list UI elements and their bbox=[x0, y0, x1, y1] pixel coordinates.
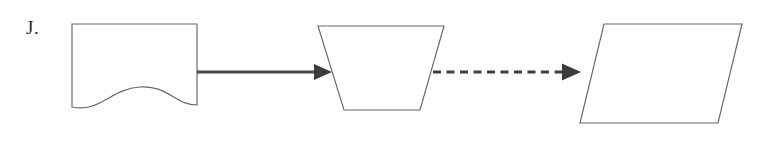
connector-dashed-arrow bbox=[433, 64, 581, 81]
connector-dashed-arrowhead bbox=[562, 64, 581, 81]
flowchart-diagram-svg bbox=[0, 0, 766, 143]
connector-solid-arrow bbox=[197, 64, 332, 80]
shape-trapezoid bbox=[318, 26, 444, 110]
shape-parallelogram bbox=[580, 24, 742, 123]
shape-document bbox=[72, 24, 197, 108]
flowchart-figure: J. bbox=[0, 0, 766, 143]
connector-solid-arrowhead bbox=[314, 64, 332, 80]
